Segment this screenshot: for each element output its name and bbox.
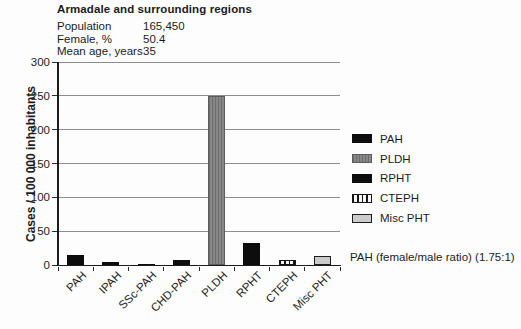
legend-swatch-pldh xyxy=(352,154,372,163)
stat-value-mean-age: 35 xyxy=(143,45,156,57)
x-axis-line xyxy=(57,265,341,267)
legend-label-pldh: PLDH xyxy=(380,153,411,165)
gridline-200 xyxy=(58,129,340,130)
x-tick-mark-7 xyxy=(304,267,305,271)
stat-label-female-pct: Female, % xyxy=(57,33,143,45)
legend-entry-misc-pht: Misc PHT xyxy=(352,208,430,228)
y-tick-label-100: 100 xyxy=(18,191,50,203)
x-tick-mark-5 xyxy=(234,267,235,271)
y-tick-label-50: 50 xyxy=(18,225,50,237)
legend: PAHPLDHRPHTCTEPHMisc PHT xyxy=(352,129,430,228)
gridline-250 xyxy=(58,95,340,96)
stat-label-mean-age: Mean age, years xyxy=(57,45,143,57)
legend-label-misc-pht: Misc PHT xyxy=(380,212,430,224)
stat-label-population: Population xyxy=(57,20,143,32)
y-tick-label-0: 0 xyxy=(18,259,50,271)
legend-entry-rpht: RPHT xyxy=(352,169,430,189)
ratio-annotation: PAH (female/male ratio) (1.75:1) xyxy=(350,251,515,263)
legend-label-rpht: RPHT xyxy=(380,172,411,184)
bar-pldh xyxy=(208,96,225,265)
stat-row-mean-age: Mean age, years 35 xyxy=(57,45,252,57)
x-tick-mark-1 xyxy=(93,267,94,271)
y-axis-line xyxy=(57,62,59,266)
legend-swatch-misc-pht xyxy=(352,214,372,223)
legend-entry-pldh: PLDH xyxy=(352,149,430,169)
legend-swatch-rpht xyxy=(352,174,372,183)
x-tick-mark-3 xyxy=(163,267,164,271)
x-tick-mark-4 xyxy=(199,267,200,271)
stat-row-population: Population 165,450 xyxy=(57,20,252,32)
stat-row-female-pct: Female, % 50.4 xyxy=(57,33,252,45)
bar-rpht xyxy=(243,243,260,265)
legend-entry-pah: PAH xyxy=(352,129,430,149)
gridline-50 xyxy=(58,231,340,232)
y-tick-label-250: 250 xyxy=(18,90,50,102)
gridline-100 xyxy=(58,197,340,198)
x-tick-mark-0 xyxy=(58,267,59,271)
x-tick-mark-8 xyxy=(340,267,341,271)
gridline-150 xyxy=(58,163,340,164)
legend-swatch-cteph xyxy=(352,194,372,203)
x-tick-mark-2 xyxy=(128,267,129,271)
legend-label-pah: PAH xyxy=(380,133,403,145)
x-tick-mark-6 xyxy=(269,267,270,271)
y-tick-label-150: 150 xyxy=(18,158,50,170)
bar-pah xyxy=(67,255,84,265)
y-tick-label-300: 300 xyxy=(18,56,50,68)
region-title: Armadale and surrounding regions xyxy=(57,3,252,15)
chart-header: Armadale and surrounding regions Populat… xyxy=(57,3,252,58)
y-tick-label-200: 200 xyxy=(18,124,50,136)
legend-label-cteph: CTEPH xyxy=(380,192,419,204)
legend-swatch-pah xyxy=(352,134,372,143)
stat-value-population: 165,450 xyxy=(143,20,185,32)
chart-figure: Armadale and surrounding regions Populat… xyxy=(0,0,521,329)
stat-value-female-pct: 50.4 xyxy=(143,33,165,45)
legend-entry-cteph: CTEPH xyxy=(352,188,430,208)
gridline-300 xyxy=(58,62,340,63)
